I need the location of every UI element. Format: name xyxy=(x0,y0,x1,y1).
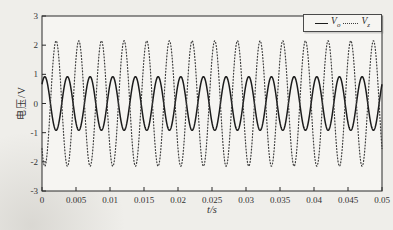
legend-solid-line-sample xyxy=(315,23,328,24)
legend-label-vz: Vz xyxy=(361,16,370,30)
x-tick-label: 0.045 xyxy=(338,195,358,205)
legend-dotted-line-sample xyxy=(343,23,358,24)
y-axis-label: 电压/V xyxy=(13,86,28,120)
x-tick-label: 0.025 xyxy=(202,195,222,205)
y-tick-label: 0 xyxy=(34,99,39,109)
y-tick-label: -1 xyxy=(31,128,39,138)
x-tick-label: 0.015 xyxy=(134,195,154,205)
legend: Vo Vz xyxy=(303,14,382,32)
x-tick-label: 0.05 xyxy=(374,195,390,205)
y-tick-label: 2 xyxy=(34,40,39,50)
figure-canvas: 电压/V t/s 00.0050.010.0150.020.0250.030.0… xyxy=(0,0,393,230)
x-tick-label: 0.01 xyxy=(102,195,118,205)
x-tick-label: 0.005 xyxy=(66,195,86,205)
plot-frame xyxy=(42,16,382,191)
y-tick-label: -2 xyxy=(31,157,39,167)
y-tick-label: 3 xyxy=(34,11,39,21)
x-tick-label: 0.04 xyxy=(306,195,322,205)
y-tick-label: -3 xyxy=(31,186,39,196)
x-tick-label: 0 xyxy=(40,195,45,205)
plot-area xyxy=(0,0,393,230)
x-tick-label: 0.02 xyxy=(170,195,186,205)
x-axis-label: t/s xyxy=(207,204,217,215)
legend-label-vo: Vo xyxy=(331,16,340,30)
x-tick-label: 0.03 xyxy=(238,195,254,205)
x-tick-label: 0.035 xyxy=(270,195,290,205)
y-tick-label: 1 xyxy=(34,69,39,79)
